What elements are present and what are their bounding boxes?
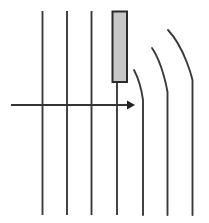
- diagram-background: [0, 0, 209, 223]
- gray-slab-rectangle: [113, 12, 128, 83]
- diagram-canvas: [0, 0, 209, 223]
- field-line-diagram: [0, 0, 209, 223]
